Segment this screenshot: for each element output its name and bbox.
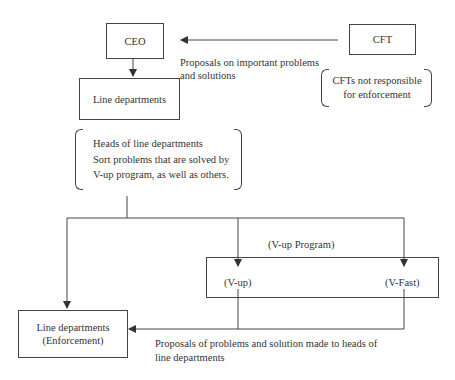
v-up-program-label: (V-up Program) (268, 238, 334, 251)
cft-label: CFT (373, 33, 392, 46)
bottom-caption: Proposals of problems and solution made … (155, 337, 377, 365)
heads-note-text: Heads of line departments Sort problems … (93, 136, 229, 183)
v-fast-label: (V-Fast) (385, 276, 420, 289)
note-line: for enforcement (331, 88, 423, 102)
ceo-label: CEO (125, 35, 146, 48)
label-line: Proposals on important problems (180, 56, 319, 69)
note-line: Heads of line departments (93, 136, 229, 152)
cft-note-text: CFTs not responsible for enforcement (331, 74, 423, 102)
cft-box: CFT (349, 24, 416, 55)
enforcement-box: Line departments (Enforcement) (18, 310, 128, 358)
note-line: Sort problems that are solved by (93, 152, 229, 168)
cft-to-ceo-label: Proposals on important problems and solu… (180, 56, 319, 82)
enforcement-label-line1: Line departments (36, 321, 109, 334)
v-up-label: (V-up) (224, 276, 252, 289)
enforcement-label-line2: (Enforcement) (42, 334, 103, 347)
line-departments-label: Line departments (93, 93, 166, 106)
note-line: CFTs not responsible (331, 74, 423, 88)
label-line: and solutions (180, 69, 319, 82)
note-line: V-up program, as well as others. (93, 167, 229, 183)
caption-line: line departments (155, 351, 377, 365)
ceo-box: CEO (106, 23, 164, 59)
line-departments-box: Line departments (79, 78, 180, 120)
caption-line: Proposals of problems and solution made … (155, 337, 377, 351)
